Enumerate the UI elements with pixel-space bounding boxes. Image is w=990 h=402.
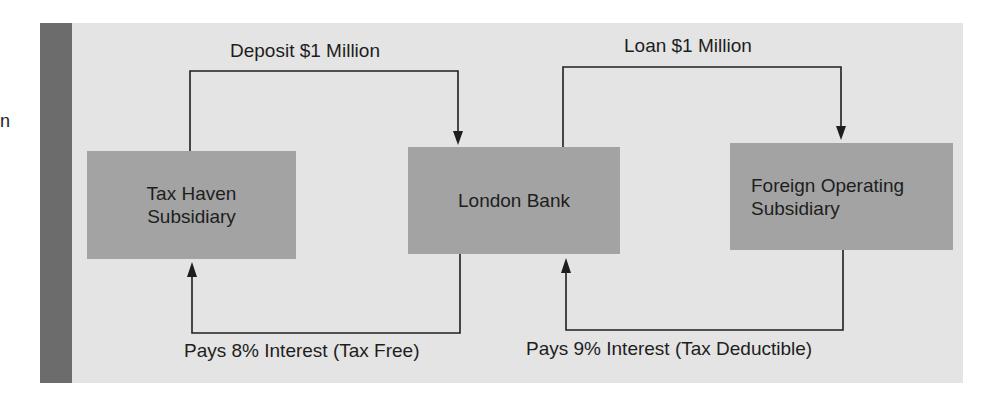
- node-label-line: Subsidiary: [751, 197, 904, 220]
- node-label-line: London Bank: [458, 189, 570, 212]
- edge-label-loan: Loan $1 Million: [624, 35, 752, 57]
- node-label-line: Tax Haven: [147, 182, 237, 205]
- edge-label-interest-tax-free: Pays 8% Interest (Tax Free): [184, 340, 419, 362]
- panel-accent-bar: [40, 23, 72, 383]
- node-label-line: Subsidiary: [147, 205, 237, 228]
- node-london-bank: London Bank: [408, 147, 620, 254]
- edge-label-interest-tax-deductible: Pays 9% Interest (Tax Deductible): [526, 338, 812, 360]
- edge-label-deposit: Deposit $1 Million: [230, 40, 380, 62]
- node-foreign-operating-subsidiary: Foreign Operating Subsidiary: [730, 143, 953, 250]
- node-tax-haven-subsidiary: Tax Haven Subsidiary: [87, 151, 296, 259]
- stray-text-fragment: n: [0, 112, 10, 130]
- node-label-line: Foreign Operating: [751, 174, 904, 197]
